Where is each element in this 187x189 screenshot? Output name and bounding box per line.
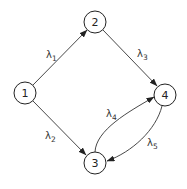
edge-label-lambda-2: λ2 [45, 130, 56, 144]
node-3: 3 [84, 152, 106, 174]
edge-label-lambda-1: λ1 [46, 49, 57, 63]
node-2: 2 [84, 11, 106, 33]
edge-2-to-4 [103, 30, 157, 86]
node-label-4: 4 [162, 89, 169, 102]
transition-graph: λ1 λ2 λ3 λ4 λ5 1 2 3 4 [0, 0, 187, 189]
edge-1-to-2 [33, 30, 87, 85]
edge-label-lambda-3: λ3 [137, 48, 148, 62]
node-1: 1 [14, 82, 36, 104]
node-4: 4 [154, 84, 176, 106]
node-label-1: 1 [22, 87, 29, 100]
edge-label-lambda-4: λ4 [106, 108, 117, 122]
edge-1-to-3 [33, 101, 86, 155]
edge-label-lambda-5: λ5 [147, 137, 158, 151]
node-label-2: 2 [92, 16, 99, 29]
edge-3-to-4 [95, 97, 154, 152]
node-label-3: 3 [92, 157, 99, 170]
